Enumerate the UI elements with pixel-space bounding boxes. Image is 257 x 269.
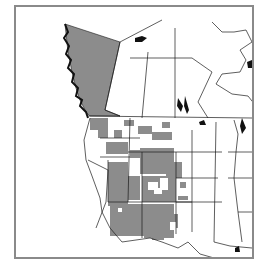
map-frame — [14, 5, 254, 259]
range-map — [16, 7, 254, 259]
shaded-region-western-us — [90, 118, 188, 240]
shaded-region-british-columbia — [65, 24, 120, 116]
